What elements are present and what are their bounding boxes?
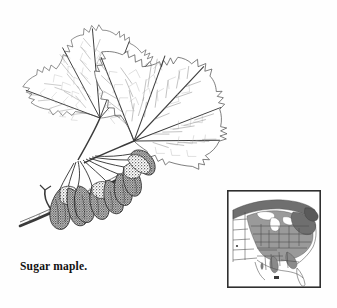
samara-cluster: [50, 150, 155, 229]
range-outlier-west: [236, 245, 238, 247]
illustration-plate: Sugar maple.: [0, 0, 337, 308]
plate-caption: Sugar maple.: [20, 260, 87, 272]
range-outlier-gulf: [274, 276, 279, 279]
range-map: [227, 190, 321, 288]
